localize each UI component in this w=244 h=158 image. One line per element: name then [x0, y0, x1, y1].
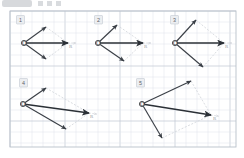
vector-diagram-canvas: OR1OR2OR3OR4OR5 [0, 0, 244, 158]
graph-paper-grid [10, 11, 236, 147]
worksheet-sheet: OR1OR2OR3OR4OR5 [0, 0, 244, 158]
origin-label-2: O [96, 39, 101, 46]
origin-label-1: O [22, 39, 27, 46]
origin-label-5: O [140, 100, 145, 107]
origin-label-4: O [21, 100, 26, 107]
panel-number-label-1: 1 [19, 17, 22, 23]
panel-number-label-4: 4 [22, 80, 25, 86]
panel-number-label-3: 3 [173, 17, 176, 23]
origin-label-3: O [173, 39, 178, 46]
panel-number-label-2: 2 [97, 17, 100, 23]
panel-number-label-5: 5 [139, 80, 142, 86]
